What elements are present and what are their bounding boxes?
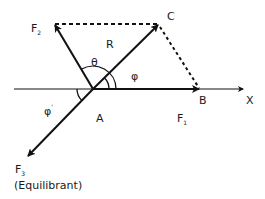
vector-f2 <box>55 25 93 89</box>
label-point-b: B <box>199 94 207 107</box>
angle-arc-phi <box>104 78 109 89</box>
label-f2: F2 <box>31 22 41 36</box>
label-equilibrant: (Equilibrant) <box>14 179 82 192</box>
label-theta: θ <box>91 56 98 69</box>
vector-f3-equilibrant <box>28 89 93 156</box>
dashed-line-c-to-b <box>160 27 199 88</box>
label-phi-prime: φ' <box>44 103 53 118</box>
label-r: R <box>106 38 114 51</box>
label-f3: F3 <box>15 163 25 177</box>
force-vector-diagram: F2 R θ φ φ' A B C X F1 F3 (Equilibrant) <box>0 0 265 199</box>
label-f1: F1 <box>177 112 187 126</box>
label-point-c: C <box>167 10 175 23</box>
vector-r-resultant <box>93 25 158 89</box>
angle-arc-phi-prime <box>77 89 82 101</box>
label-x-axis: X <box>246 94 254 107</box>
label-point-a: A <box>96 112 104 125</box>
label-phi: φ <box>131 70 138 83</box>
